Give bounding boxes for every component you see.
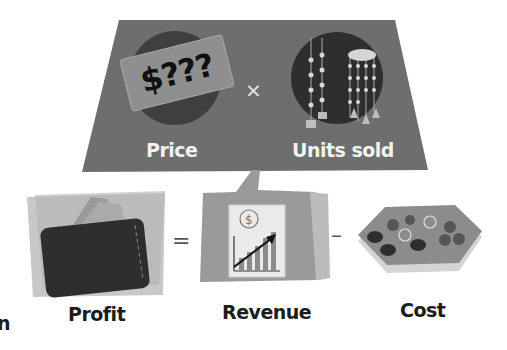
wallet-icon (25, 185, 170, 310)
revenue-panel: $ (200, 170, 330, 300)
cropped-edge-text: n (0, 312, 10, 334)
tray-icon (355, 205, 490, 285)
cost-label: Cost (400, 299, 445, 321)
price-label: Price (146, 139, 197, 161)
dollar-coin-icon: $ (245, 213, 253, 227)
times-operator: × (245, 78, 262, 102)
equals-operator: = (172, 228, 190, 253)
price-tag-text: $??? (137, 46, 218, 101)
revenue-label: Revenue (222, 301, 311, 323)
units-sold-label: Units sold (292, 139, 394, 161)
minus-operator: – (331, 222, 342, 247)
profit-illustration (25, 185, 170, 310)
profit-label: Profit (68, 303, 125, 325)
revenue-illustration: $ (200, 170, 330, 300)
cost-illustration (355, 205, 490, 285)
